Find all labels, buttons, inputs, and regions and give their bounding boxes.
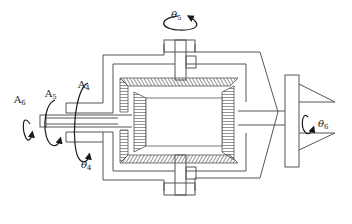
rotation-arrow-A6 — [23, 120, 32, 140]
label-theta6: θ6 — [318, 119, 329, 131]
label-theta5: θ5 — [171, 10, 182, 22]
inner-shaft-A6 — [40, 115, 132, 127]
rotation-arrow-A5 — [45, 100, 60, 146]
bevel-gear-assembly — [120, 78, 238, 163]
top-bevel-shaft — [164, 40, 196, 80]
rotation-arrow-theta6 — [302, 115, 313, 133]
label-theta4: θ4 — [81, 160, 92, 172]
mechanism-drawing — [0, 0, 352, 224]
diagram-canvas: A6 A5 A4 θ4 θ5 θ6 — [0, 0, 352, 224]
label-A6: A6 — [14, 95, 26, 107]
label-A4: A4 — [78, 80, 90, 92]
rotation-arrow-A4 — [74, 83, 89, 162]
label-A5: A5 — [45, 89, 57, 101]
